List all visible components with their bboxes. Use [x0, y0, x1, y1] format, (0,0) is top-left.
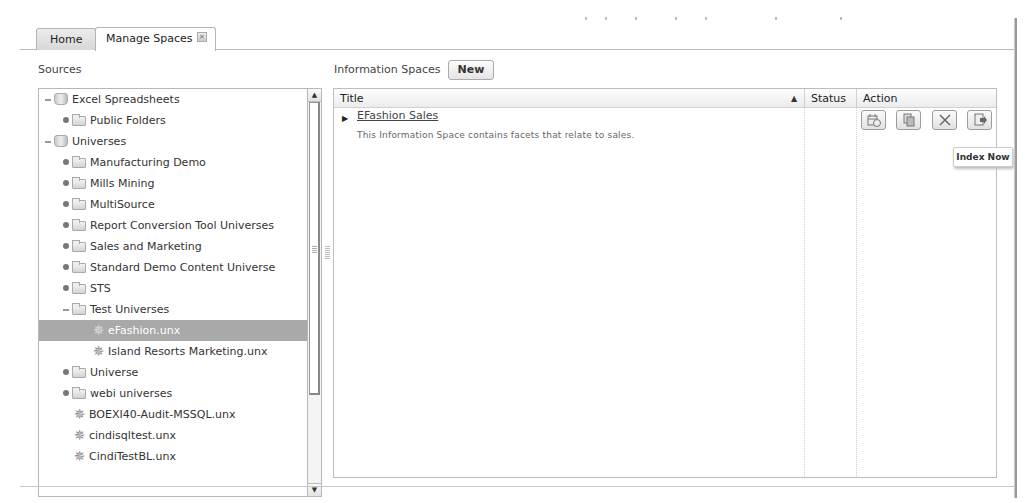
expand-icon[interactable]	[63, 222, 69, 228]
sources-heading: Sources	[38, 63, 82, 76]
tree-item[interactable]: ✵BOEXI40-Audit-MSSQL.unx	[39, 404, 309, 425]
tree-item-label: webi universes	[90, 383, 172, 404]
tree-item-label: CindiTestBL.unx	[89, 446, 176, 467]
new-button[interactable]: New	[448, 60, 494, 80]
universe-icon: ✵	[72, 428, 87, 443]
collapse-icon[interactable]	[63, 307, 69, 312]
schedule-icon	[867, 113, 881, 127]
sort-ascending-icon[interactable]: ▲	[791, 89, 797, 108]
tree-item-label: Island Resorts Marketing.unx	[108, 341, 267, 362]
tab-bar: Home Manage Spaces ✕	[20, 23, 1014, 50]
tree-item-label: eFashion.unx	[108, 320, 180, 341]
folder-icon	[72, 242, 86, 252]
tree-item[interactable]: Public Folders	[39, 110, 309, 131]
universe-icon: ✵	[72, 449, 87, 464]
tree-scrollbar[interactable]: ▲ ▼	[307, 89, 321, 496]
folder-icon	[72, 116, 86, 126]
tree-item-label: MultiSource	[90, 194, 155, 215]
index-now-button[interactable]	[967, 110, 992, 130]
window-right-edge	[1014, 18, 1017, 498]
collapse-icon[interactable]	[45, 97, 51, 102]
tree-item[interactable]: Standard Demo Content Universe	[39, 257, 309, 278]
column-header-title[interactable]: Title	[334, 89, 804, 108]
tree-item-label: Public Folders	[90, 110, 166, 131]
expand-row-icon[interactable]: ▶	[342, 114, 348, 123]
tab-manage-spaces-label: Manage Spaces	[106, 32, 192, 45]
tree-item-label: Standard Demo Content Universe	[90, 257, 275, 278]
column-header-status[interactable]: Status	[804, 89, 856, 108]
expand-icon[interactable]	[63, 159, 69, 165]
tree-item[interactable]: webi universes	[39, 383, 309, 404]
universe-icon: ✵	[72, 407, 87, 422]
tree-item-label: BOEXI40-Audit-MSSQL.unx	[89, 404, 235, 425]
tree-item[interactable]: ✵cindisqltest.unx	[39, 425, 309, 446]
folder-icon	[72, 158, 86, 168]
column-divider	[804, 108, 805, 477]
tree-item-label: Sales and Marketing	[90, 236, 202, 257]
splitter-grip-icon	[312, 246, 317, 254]
splitter-grip-icon	[325, 246, 330, 260]
tree-item-label: Excel Spreadsheets	[72, 89, 180, 110]
tree-item[interactable]: Excel Spreadsheets	[39, 89, 309, 110]
expand-icon[interactable]	[63, 243, 69, 249]
information-space-link[interactable]: EFashion Sales	[357, 109, 438, 122]
index-now-tooltip: Index Now	[953, 147, 1013, 167]
tab-home[interactable]: Home	[36, 28, 96, 50]
sources-tree: Excel SpreadsheetsPublic FoldersUniverse…	[38, 88, 322, 497]
information-spaces-grid: Title ▲ Status Action ▶ EFashion Sales T…	[333, 88, 997, 478]
expand-icon[interactable]	[63, 180, 69, 186]
tree-item-label: STS	[90, 278, 111, 299]
panel-splitter[interactable]	[325, 88, 331, 497]
expand-icon[interactable]	[63, 390, 69, 396]
expand-icon[interactable]	[63, 117, 69, 123]
copy-button[interactable]	[896, 110, 921, 130]
folder-icon	[72, 389, 86, 399]
tree-item[interactable]: Manufacturing Demo	[39, 152, 309, 173]
tab-manage-spaces[interactable]: Manage Spaces ✕	[95, 27, 216, 51]
information-space-description: This Information Space contains facets t…	[357, 130, 635, 140]
folder-icon	[72, 284, 86, 294]
expand-icon[interactable]	[63, 285, 69, 291]
tree-item[interactable]: ✵Island Resorts Marketing.unx	[39, 341, 309, 362]
collapse-icon[interactable]	[45, 139, 51, 144]
tree-item[interactable]: Universes	[39, 131, 309, 152]
delete-icon	[938, 113, 952, 127]
scroll-down-arrow-icon[interactable]: ▼	[308, 483, 321, 496]
folder-icon	[72, 200, 86, 210]
expand-icon[interactable]	[63, 369, 69, 375]
close-icon[interactable]: ✕	[197, 32, 207, 42]
grid-header: Title ▲ Status Action	[334, 89, 996, 108]
tree-item-label: Universes	[72, 131, 126, 152]
delete-button[interactable]	[932, 110, 957, 130]
tree-item[interactable]: Test Universes	[39, 299, 309, 320]
tree-item[interactable]: Report Conversion Tool Universes	[39, 215, 309, 236]
column-header-action: Action	[856, 89, 996, 108]
column-status-label: Status	[811, 92, 846, 105]
tree-item-label: cindisqltest.unx	[89, 425, 176, 446]
tree-item[interactable]: MultiSource	[39, 194, 309, 215]
column-title-label: Title	[340, 92, 364, 105]
folder-icon	[72, 179, 86, 189]
column-divider	[856, 108, 857, 477]
copy-icon	[902, 113, 916, 127]
content-bottom-border	[20, 486, 1014, 487]
tree-item-label: Universe	[90, 362, 138, 383]
expand-icon[interactable]	[63, 264, 69, 270]
folder-icon	[72, 305, 86, 315]
schedule-button[interactable]	[861, 110, 886, 130]
tree-item[interactable]: ✵CindiTestBL.unx	[39, 446, 309, 467]
decorative-dots	[585, 17, 945, 21]
universe-icon: ✵	[91, 323, 106, 338]
index-now-icon	[973, 113, 987, 127]
tree-item[interactable]: STS	[39, 278, 309, 299]
expand-icon[interactable]	[63, 201, 69, 207]
tree-item-label: Mills Mining	[90, 173, 154, 194]
folder-icon	[72, 263, 86, 273]
tree-item-label: Report Conversion Tool Universes	[90, 215, 274, 236]
tree-item[interactable]: Mills Mining	[39, 173, 309, 194]
tree-item[interactable]: Universe	[39, 362, 309, 383]
tree-item[interactable]: Sales and Marketing	[39, 236, 309, 257]
tree-item[interactable]: ✵eFashion.unx	[39, 320, 309, 341]
scroll-up-arrow-icon[interactable]: ▲	[308, 89, 321, 102]
universe-icon: ✵	[91, 344, 106, 359]
